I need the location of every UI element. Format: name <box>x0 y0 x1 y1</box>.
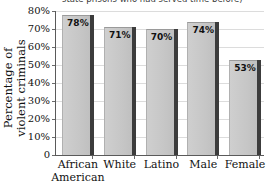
bar-shadow <box>90 15 94 155</box>
bar-value-label: 53% <box>229 63 261 73</box>
bar-african-american[interactable]: 78% <box>62 15 94 155</box>
gridline <box>55 11 264 12</box>
y-axis-tick-label: 50% <box>28 60 50 70</box>
y-axis-tick-label: 60% <box>28 42 50 52</box>
y-axis-tick-label: 80% <box>28 6 50 16</box>
x-axis-category-label-line-1: Latino <box>144 158 180 171</box>
y-axis-title: Percentage of violent criminals <box>0 14 30 162</box>
x-axis-line <box>55 155 264 156</box>
bar-shadow <box>257 60 261 155</box>
bar-value-label: 71% <box>104 30 136 40</box>
y-axis-tick-label: 20% <box>28 114 50 124</box>
y-axis-line <box>55 11 56 156</box>
x-axis-category-label-line-1: Female <box>225 158 266 171</box>
y-axis-tick-label: 70% <box>28 24 50 34</box>
bar-value-label: 78% <box>62 18 94 28</box>
x-axis-category-label-line-2: American <box>50 172 106 185</box>
x-axis-category-label: Female <box>217 159 267 172</box>
bar-value-label: 70% <box>146 32 178 42</box>
y-axis-tick-label: 40% <box>28 78 50 88</box>
y-axis-title-line-2: violent criminals <box>15 39 28 136</box>
plot-area: 010%20%30%40%50%60%70%80% 78%71%70%74%53… <box>55 11 264 156</box>
x-axis-category-label-line-1: White <box>103 158 136 171</box>
x-axis-category-label-line-1: Male <box>189 158 217 171</box>
bar-white[interactable]: 71% <box>104 27 136 155</box>
chart-title: state prisons who had served time before… <box>62 0 262 6</box>
bar-chart: state prisons who had served time before… <box>0 0 267 186</box>
bar-female[interactable]: 53% <box>229 60 261 155</box>
y-axis-tick-label: 30% <box>28 96 50 106</box>
bar-shadow <box>215 22 219 155</box>
bar-latino[interactable]: 70% <box>146 29 178 155</box>
bar-male[interactable]: 74% <box>187 22 219 155</box>
x-axis-labels: AfricanAmericanWhiteLatinoMaleFemale <box>55 159 267 186</box>
y-axis-tick-label: 10% <box>28 132 50 142</box>
bar-value-label: 74% <box>187 25 219 35</box>
bar-shadow <box>132 27 136 155</box>
bar-shadow <box>174 29 178 155</box>
